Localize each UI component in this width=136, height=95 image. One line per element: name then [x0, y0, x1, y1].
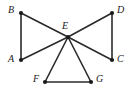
- vertex-label-c: C: [117, 54, 124, 64]
- vertex-b: [19, 11, 23, 15]
- graph-canvas: [0, 0, 136, 95]
- edge-a-e: [21, 37, 68, 60]
- vertex-e: [66, 35, 70, 39]
- vertex-f: [43, 80, 47, 84]
- vertex-g: [89, 80, 93, 84]
- graph-figure: ABCDEFG: [0, 0, 136, 95]
- vertex-d: [110, 11, 114, 15]
- vertex-label-f: F: [33, 74, 39, 84]
- vertex-label-e: E: [62, 21, 68, 31]
- vertex-label-b: B: [8, 5, 14, 15]
- edge-b-e: [21, 13, 68, 37]
- vertex-label-a: A: [8, 54, 14, 64]
- vertex-label-d: D: [117, 5, 124, 15]
- vertex-c: [110, 58, 114, 62]
- vertex-label-g: G: [96, 74, 103, 84]
- edge-e-d: [68, 13, 112, 37]
- edge-e-f: [45, 37, 68, 82]
- vertex-a: [19, 58, 23, 62]
